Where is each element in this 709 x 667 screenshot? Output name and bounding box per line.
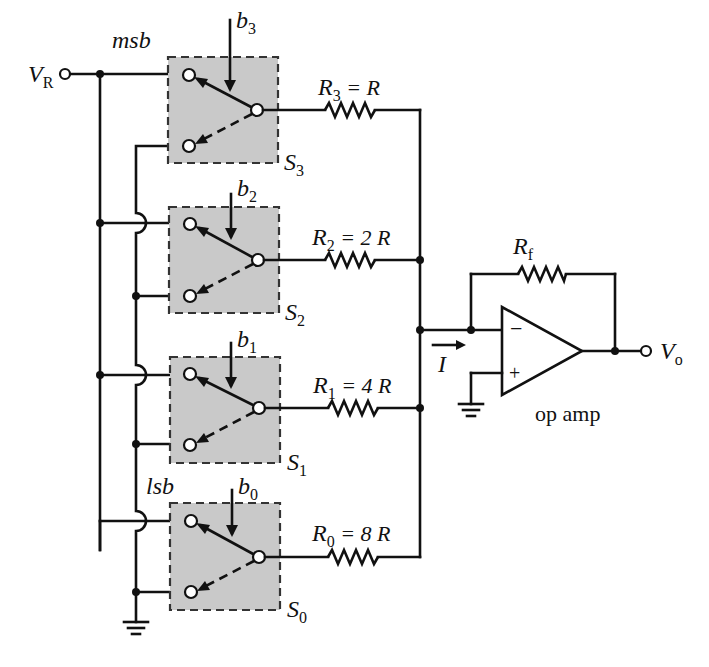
resistor-r3 [325, 103, 375, 117]
resistor-rf [518, 267, 566, 281]
rf-label: Rf [512, 233, 534, 263]
inverting-input-sign: − [510, 316, 522, 341]
stage-s0: lsb b0 S0 R0 = 8 R [100, 473, 420, 626]
bit-b0-label: b0 [238, 473, 258, 503]
bit-b1-label: b1 [237, 326, 257, 356]
resistor-r0 [328, 550, 378, 564]
resistor-r3-label: R3 = R [317, 74, 381, 104]
stage-s1: b1 S1 R1 = 4 R [96, 326, 424, 479]
switch-s1-label: S1 [287, 449, 307, 479]
vr-label: VR [28, 61, 54, 91]
op-amp-label: op amp [535, 401, 600, 426]
resistor-r0-label: R0 = 8 R [311, 520, 391, 550]
switch-s0-label: S0 [287, 596, 307, 626]
lsb-label: lsb [146, 473, 174, 499]
op-amp: Rf − + Vo op amp [420, 233, 683, 426]
switch-s2-label: S2 [285, 299, 305, 329]
resistor-r1 [328, 401, 378, 415]
current-indicator: I [433, 340, 466, 377]
ground-icon [124, 622, 148, 634]
pole-bottom [183, 140, 195, 152]
arrow-right-icon [456, 340, 466, 350]
pole-common [251, 104, 263, 116]
noninverting-input-sign: + [509, 362, 520, 384]
switch-s3-label: S3 [284, 149, 304, 179]
ground-icon [459, 404, 483, 416]
stage-s3: msb b3 S3 R3 = R [112, 7, 420, 179]
vr-terminal-icon [60, 69, 70, 79]
bit-b3-label: b3 [236, 7, 256, 37]
vo-terminal-icon [641, 346, 651, 356]
reference-voltage-terminal: VR [28, 61, 100, 91]
resistor-r1-label: R1 = 4 R [312, 372, 392, 402]
bit-b2-label: b2 [237, 175, 257, 205]
dac-circuit-diagram: VR msb b3 S3 R3 = R b2 [0, 0, 709, 667]
resistor-r2-label: R2 = 2 R [311, 224, 391, 254]
resistor-r2 [325, 253, 375, 267]
stage-s2: b2 S2 R2 = 2 R [96, 175, 424, 329]
vo-label: Vo [660, 338, 683, 368]
pole-top [183, 69, 195, 81]
msb-label: msb [112, 27, 151, 53]
current-label: I [437, 351, 447, 377]
